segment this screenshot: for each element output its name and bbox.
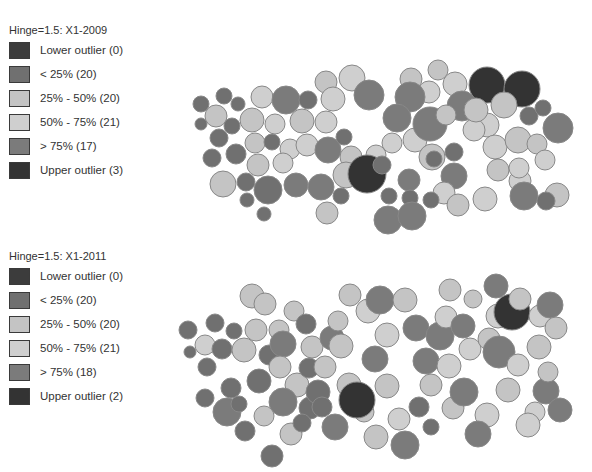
region-circle-p50-75 xyxy=(382,133,402,153)
region-circle-gt75 xyxy=(543,113,573,143)
region-circle-p25-50 xyxy=(505,127,531,153)
region-circle-lt25 xyxy=(261,445,283,467)
region-circle-gt75 xyxy=(465,421,491,447)
region-circle-lt25 xyxy=(240,193,254,207)
region-circle-p50-75 xyxy=(459,338,481,360)
region-circle-p25-50 xyxy=(210,171,236,197)
region-circle-p50-75 xyxy=(296,134,318,156)
region-circle-lt25 xyxy=(293,414,311,432)
region-circle-p50-75 xyxy=(273,153,293,173)
cartogram-2011 xyxy=(179,274,572,467)
region-circle-p50-75 xyxy=(265,114,285,134)
region-circle-p25-50 xyxy=(290,109,314,133)
region-circle-gt75 xyxy=(398,202,426,230)
region-circle-p25-50 xyxy=(205,105,227,127)
region-circle-p25-50 xyxy=(464,98,488,122)
region-circle-p25-50 xyxy=(538,362,558,382)
region-circle-lt25 xyxy=(333,188,349,204)
region-circle-lt25 xyxy=(381,188,397,204)
cartogram-2009 xyxy=(193,60,573,234)
region-circle-p25-50 xyxy=(329,334,353,358)
region-circle-lt25 xyxy=(224,118,240,134)
region-circle-gt75 xyxy=(270,331,296,357)
region-circle-lt25 xyxy=(535,100,551,116)
region-circle-p50-75 xyxy=(516,413,540,437)
region-circle-gt75 xyxy=(366,286,394,314)
region-circle-lt25 xyxy=(184,346,196,358)
region-circle-p50-75 xyxy=(251,86,273,108)
region-circle-p25-50 xyxy=(436,105,456,125)
region-circle-p50-75 xyxy=(321,87,345,111)
region-circle-gt75 xyxy=(413,348,439,374)
region-circle-p25-50 xyxy=(232,338,256,362)
region-circle-p50-75 xyxy=(535,150,555,170)
circle-cartogram xyxy=(0,0,592,472)
region-circle-p25-50 xyxy=(545,317,567,339)
region-circle-lt25 xyxy=(257,207,271,221)
region-circle-gt75 xyxy=(322,414,348,440)
region-circle-p25-50 xyxy=(527,335,551,359)
region-circle-lt25 xyxy=(296,314,316,334)
region-circle-p25-50 xyxy=(254,293,276,315)
region-circle-lt25 xyxy=(336,129,352,145)
region-circle-lt25 xyxy=(373,156,391,174)
region-circle-p50-75 xyxy=(507,354,529,376)
region-circle-p25-50 xyxy=(245,319,267,341)
region-circle-lt25 xyxy=(247,369,271,393)
region-circle-p50-75 xyxy=(315,111,337,133)
region-circle-p25-50 xyxy=(269,356,291,378)
region-circle-lt25 xyxy=(210,129,228,147)
region-circle-p25-50 xyxy=(254,406,274,426)
region-circle-lt25 xyxy=(423,419,439,435)
region-circle-lt25 xyxy=(198,358,216,376)
region-circle-gt75 xyxy=(308,174,334,200)
region-circle-lt25 xyxy=(196,389,214,407)
region-circle-p25-50 xyxy=(464,290,482,308)
region-circle-lt25 xyxy=(235,421,255,441)
region-circle-lt25 xyxy=(537,192,555,210)
region-circle-gt75 xyxy=(398,169,420,191)
region-circle-lt25 xyxy=(423,192,439,208)
region-circle-gt75 xyxy=(403,315,429,341)
region-circle-lt25 xyxy=(231,97,245,111)
region-circle-p25-50 xyxy=(364,425,388,449)
region-circle-p25-50 xyxy=(496,378,520,402)
region-circle-p50-75 xyxy=(483,135,507,159)
region-circle-lt25 xyxy=(426,151,442,167)
region-circle-gt75 xyxy=(354,80,384,110)
region-circle-p25-50 xyxy=(240,108,264,132)
region-circle-gt75 xyxy=(537,292,563,318)
region-circle-p25-50 xyxy=(393,288,417,312)
region-circle-lt25 xyxy=(221,378,241,398)
region-circle-p50-75 xyxy=(509,158,529,178)
region-circle-p50-75 xyxy=(473,187,497,211)
region-circle-p25-50 xyxy=(375,374,399,398)
region-circle-gt75 xyxy=(383,104,411,132)
region-circle-p25-50 xyxy=(447,194,469,216)
region-circle-gt75 xyxy=(374,206,402,234)
region-circle-p25-50 xyxy=(509,288,531,310)
region-circle-gt75 xyxy=(362,346,388,372)
region-circle-p25-50 xyxy=(439,279,461,301)
region-circle-gt75 xyxy=(450,378,478,406)
region-circle-lt25 xyxy=(216,88,232,104)
region-circle-lt25 xyxy=(231,396,247,412)
region-circle-gt75 xyxy=(272,86,300,114)
region-circle-gt75 xyxy=(391,431,419,459)
region-circle-p25-50 xyxy=(316,202,338,224)
region-circle-lt25 xyxy=(206,314,224,332)
region-circle-p25-50 xyxy=(491,92,517,118)
region-circle-lt25 xyxy=(254,176,282,204)
region-circle-p25-50 xyxy=(420,374,442,396)
region-circle-p50-75 xyxy=(375,323,399,347)
region-circle-p50-75 xyxy=(388,408,410,430)
region-circle-lt25 xyxy=(203,149,221,167)
region-circle-lt25 xyxy=(445,143,463,161)
region-circle-upper-outlier xyxy=(339,382,375,418)
region-circle-lt25 xyxy=(237,173,255,191)
region-circle-lt25 xyxy=(195,118,207,130)
region-circle-lt25 xyxy=(312,397,332,417)
region-circle-p25-50 xyxy=(245,133,265,153)
region-circle-lt25 xyxy=(226,144,246,164)
region-circle-gt75 xyxy=(484,274,508,298)
